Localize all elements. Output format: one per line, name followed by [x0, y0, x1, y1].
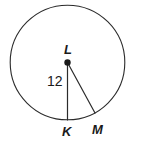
point-label-k: K — [62, 125, 71, 138]
circle-diagram-canvas — [0, 0, 147, 150]
geometry-figure: L 12 K M — [0, 0, 147, 150]
point-label-l: L — [64, 43, 72, 56]
point-label-m: M — [92, 123, 103, 136]
center-point-dot — [64, 59, 70, 65]
radius-segment-lm — [68, 63, 96, 114]
radius-measure-label: 12 — [47, 74, 63, 88]
